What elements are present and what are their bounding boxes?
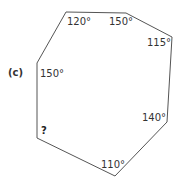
angle-label-right-upper: 115° bbox=[147, 37, 171, 48]
angle-label-bottom: 110° bbox=[101, 159, 125, 170]
angle-label-top-left: 120° bbox=[67, 16, 91, 27]
polygon-diagram: (c) 120° 150° 115° 140° 110° ? 150° bbox=[0, 0, 176, 181]
angle-label-top-right: 150° bbox=[109, 16, 133, 27]
angle-label-right-lower: 140° bbox=[142, 112, 166, 123]
angle-label-left-upper: 150° bbox=[40, 68, 64, 79]
part-label: (c) bbox=[8, 67, 23, 78]
unknown-angle-label: ? bbox=[41, 125, 47, 136]
